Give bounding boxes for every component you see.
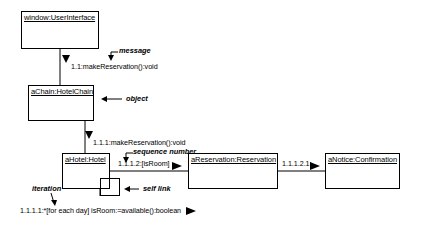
object-label-notice: aNotice:Confirmation	[326, 154, 399, 165]
annotation-message: message	[119, 46, 151, 55]
object-box-notice[interactable]: aNotice:Confirmation	[325, 153, 400, 189]
object-box-reservation[interactable]: aReservation:Reservation	[188, 153, 278, 189]
object-label-reservation: aReservation:Reservation	[189, 154, 277, 165]
object-box-window[interactable]: window:UserInterface	[21, 11, 99, 49]
message-label-1: 1.1:makeReservation():void	[71, 62, 158, 71]
annotation-iteration: iteration	[32, 184, 61, 193]
object-label-window: window:UserInterface	[22, 12, 98, 23]
message-label-2: 1.1.1:makeReservation():void	[93, 138, 185, 147]
uml-communication-diagram: window:UserInterface aChain:HotelChain a…	[0, 0, 421, 231]
message-label-5: 1.1.1.1:*[for each day] isRoom:=availabl…	[20, 206, 181, 215]
message-label-3: 1.1.1.2:[isRoom]	[118, 159, 170, 168]
annotation-self-link: self link	[143, 184, 171, 193]
annotation-sequence-number: sequence number	[133, 147, 196, 156]
object-label-chain: aChain:HotelChain	[29, 86, 93, 97]
object-box-chain[interactable]: aChain:HotelChain	[28, 85, 94, 121]
annotation-object: object	[126, 94, 148, 103]
object-label-hotel: aHotel:Hotel	[63, 154, 109, 165]
self-link-box	[100, 178, 120, 196]
message-label-4: 1.1.1.2.1:	[282, 159, 311, 168]
